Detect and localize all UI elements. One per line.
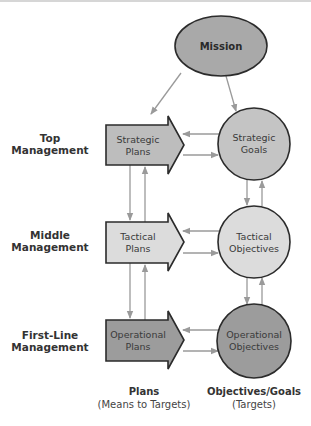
- operational-objectives-node: Operational Objectives: [217, 304, 291, 378]
- tactical-plans-line1: Tactical: [119, 231, 155, 242]
- level-top-line2: Management: [11, 144, 88, 156]
- operational-objectives-line1: Operational: [226, 329, 282, 340]
- strategic-goals-line1: Strategic: [233, 132, 276, 143]
- strategic-goals-line2: Goals: [241, 144, 268, 155]
- tactical-objectives-line2: Objectives: [229, 243, 279, 254]
- level-top-line1: Top: [40, 132, 61, 144]
- plans-caption-title: Plans: [129, 386, 160, 397]
- operational-plans-node: Operational Plans: [106, 311, 184, 369]
- operational-plans-line2: Plans: [125, 341, 150, 352]
- column-captions: Plans (Means to Targets) Objectives/Goal…: [98, 386, 302, 410]
- level-middle-line2: Management: [11, 241, 88, 253]
- tactical-plans-line2: Plans: [125, 243, 150, 254]
- plans-caption-subtitle: (Means to Targets): [98, 399, 191, 410]
- operational-plans-line1: Operational: [110, 329, 166, 340]
- strategic-plans-node: Strategic Plans: [106, 116, 184, 174]
- strategic-plans-line1: Strategic: [117, 134, 160, 145]
- tactical-plans-node: Tactical Plans: [106, 213, 184, 271]
- planning-hierarchy-diagram: Mission Top Management Middle Management…: [0, 0, 311, 426]
- level-firstline-line2: Management: [11, 341, 88, 353]
- operational-objectives-line2: Objectives: [229, 341, 279, 352]
- tactical-objectives-line1: Tactical: [235, 231, 271, 242]
- level-labels: Top Management Middle Management First-L…: [11, 132, 88, 353]
- tactical-objectives-node: Tactical Objectives: [218, 206, 290, 278]
- mission-connectors: [151, 73, 236, 114]
- strategic-goals-node: Strategic Goals: [218, 108, 290, 180]
- objectives-caption-subtitle: (Targets): [232, 399, 276, 410]
- level-middle-line1: Middle: [30, 229, 70, 241]
- level-firstline-line1: First-Line: [22, 329, 78, 341]
- mission-to-strategic-goals-arrow: [226, 76, 236, 111]
- mission-node: Mission: [175, 16, 267, 76]
- horizontal-connectors: [183, 134, 219, 351]
- objectives-caption-title: Objectives/Goals: [207, 386, 301, 397]
- mission-label: Mission: [200, 41, 243, 52]
- strategic-plans-line2: Plans: [125, 146, 150, 157]
- mission-to-strategic-plans-arrow: [151, 73, 181, 114]
